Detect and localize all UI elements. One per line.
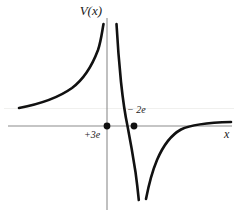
positive-charge-label: +3e bbox=[84, 130, 100, 140]
potential-function-figure: V(x) x +3e − 2e bbox=[0, 0, 238, 217]
curve-branch-left bbox=[19, 24, 104, 108]
charge-dot-positive bbox=[104, 123, 111, 130]
curve-branch-right bbox=[146, 122, 231, 199]
plot-canvas bbox=[0, 0, 238, 217]
charge-dot-negative bbox=[131, 123, 138, 130]
negative-charge-label: − 2e bbox=[127, 105, 146, 115]
y-axis-label: V(x) bbox=[80, 4, 104, 17]
x-axis-label: x bbox=[224, 128, 229, 140]
